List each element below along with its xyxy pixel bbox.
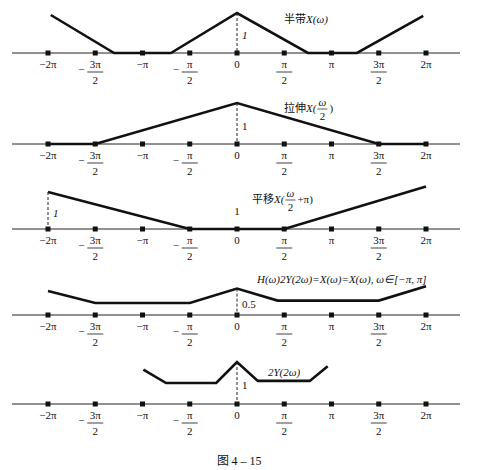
tick-mark xyxy=(282,313,287,318)
tick-label: −π xyxy=(137,149,149,161)
tick-mark xyxy=(187,51,192,56)
tick-label-numerator: 3π xyxy=(90,409,102,421)
figure-caption: 图 4 – 15 xyxy=(0,451,478,469)
tick-label-numerator: 3π xyxy=(373,58,385,70)
tick-label-numerator: 3π xyxy=(373,409,385,421)
tick-label: 2π xyxy=(420,234,432,246)
tick-label: π xyxy=(329,409,335,421)
panel-shift: −2π3π2−−ππ2−0π2π3π22π11平移X(ω2+π) xyxy=(12,186,460,262)
tick-label-sign: − xyxy=(78,325,84,337)
tick-label-denominator: 2 xyxy=(376,336,382,348)
tick-label-denominator: 2 xyxy=(187,165,193,177)
tick-label-numerator: 3π xyxy=(373,149,385,161)
tick-label-numerator: 3π xyxy=(90,58,102,70)
tick-label: −2π xyxy=(39,149,57,161)
tick-mark xyxy=(424,402,429,407)
tick-label-numerator: π xyxy=(187,409,193,421)
tick-mark xyxy=(93,227,98,232)
tick-label-denominator: 2 xyxy=(282,336,288,348)
tick-label-denominator: 2 xyxy=(93,336,99,348)
tick-mark xyxy=(376,402,381,407)
tick-label: π xyxy=(329,320,335,332)
tick-label: 0 xyxy=(234,149,240,161)
tick-label-denominator: 2 xyxy=(93,425,99,437)
tick-label: −π xyxy=(137,409,149,421)
tick-mark xyxy=(187,313,192,318)
tick-mark xyxy=(140,227,145,232)
tick-label-numerator: 3π xyxy=(90,234,102,246)
panel-sum: −2π3π2−−ππ2−0π2π3π22π0.5H(ω)2Y(2ω)=X(ω)=… xyxy=(12,273,460,348)
tick-mark xyxy=(187,142,192,147)
tick-label-denominator: 2 xyxy=(376,165,382,177)
tick-mark xyxy=(282,402,287,407)
tick-label: 0 xyxy=(234,234,240,246)
tick-mark xyxy=(93,51,98,56)
tick-label-denominator: 2 xyxy=(187,74,193,86)
tick-label: −2π xyxy=(39,234,57,246)
tick-mark xyxy=(329,313,334,318)
tick-label-denominator: 2 xyxy=(93,250,99,262)
tick-label-denominator: 2 xyxy=(282,425,288,437)
tick-label-denominator: 2 xyxy=(282,250,288,262)
tick-mark xyxy=(329,142,334,147)
tick-mark xyxy=(424,313,429,318)
tick-mark xyxy=(46,313,51,318)
tick-label-sign: − xyxy=(78,154,84,166)
tick-label-denominator: 2 xyxy=(376,425,382,437)
tick-label-numerator: 3π xyxy=(90,320,102,332)
height-label: 1 xyxy=(242,379,248,391)
tick-label-denominator: 2 xyxy=(93,74,99,86)
tick-label-denominator: 2 xyxy=(282,74,288,86)
tick-label-numerator: π xyxy=(187,149,193,161)
tick-label-denominator: 2 xyxy=(187,336,193,348)
tick-label-sign: − xyxy=(78,414,84,426)
panel-half-band: −2π3π2−−ππ2−0π2π3π22π1半带X(ω) xyxy=(12,12,460,86)
curve-label: 平移X( xyxy=(252,193,286,206)
tick-label: π xyxy=(329,149,335,161)
tick-label-sign: − xyxy=(173,154,179,166)
tick-mark xyxy=(93,313,98,318)
curve-label: H(ω)2Y(2ω)=X(ω)=X(ω), ω∈[−π, π] xyxy=(256,273,427,286)
tick-mark xyxy=(376,227,381,232)
tick-label: 2π xyxy=(420,409,432,421)
tick-mark xyxy=(282,51,287,56)
tick-mark xyxy=(282,142,287,147)
tick-label: −2π xyxy=(39,320,57,332)
tick-label-sign: − xyxy=(173,325,179,337)
tick-mark xyxy=(140,313,145,318)
panel-stretch: −2π3π2−−ππ2−0π2π3π22π1拉伸X(ω2) xyxy=(12,96,460,177)
tick-label: 2π xyxy=(420,58,432,70)
tick-label-denominator: 2 xyxy=(93,165,99,177)
curve-label-frac-den: 2 xyxy=(320,110,326,122)
tick-label-numerator: π xyxy=(281,234,287,246)
tick-label: 2π xyxy=(420,320,432,332)
curve-label: 2Y(2ω) xyxy=(268,366,301,379)
tick-label: 0 xyxy=(234,58,240,70)
tick-label-numerator: π xyxy=(281,149,287,161)
tick-mark xyxy=(140,402,145,407)
tick-label-numerator: 3π xyxy=(373,234,385,246)
tick-label: 0 xyxy=(234,409,240,421)
tick-label-denominator: 2 xyxy=(187,250,193,262)
tick-label-numerator: π xyxy=(187,320,193,332)
tick-label: π xyxy=(329,58,335,70)
curve-label-frac-den: 2 xyxy=(288,201,294,213)
tick-label-numerator: π xyxy=(187,58,193,70)
tick-mark xyxy=(46,402,51,407)
tick-mark xyxy=(424,227,429,232)
tick-label: 2π xyxy=(420,149,432,161)
tick-label-denominator: 2 xyxy=(187,425,193,437)
tick-label-numerator: π xyxy=(281,320,287,332)
tick-label-numerator: 3π xyxy=(373,320,385,332)
height-label-center: 1 xyxy=(234,205,240,217)
tick-label: π xyxy=(329,234,335,246)
curve-label: 半带X(ω) xyxy=(284,12,328,26)
curve-label-tail: +π) xyxy=(297,193,313,206)
tick-mark xyxy=(329,402,334,407)
tick-label-numerator: π xyxy=(187,234,193,246)
tick-mark xyxy=(424,51,429,56)
figure-canvas: −2π3π2−−ππ2−0π2π3π22π1半带X(ω)−2π3π2−−ππ2−… xyxy=(0,0,478,470)
tick-label-sign: − xyxy=(173,239,179,251)
tick-label-sign: − xyxy=(78,239,84,251)
tick-label-denominator: 2 xyxy=(376,74,382,86)
